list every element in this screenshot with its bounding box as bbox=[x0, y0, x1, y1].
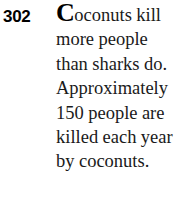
fact-number: 302 bbox=[3, 8, 30, 25]
fact-page: 302 Coconuts kill more people than shark… bbox=[0, 0, 175, 208]
fact-body-remainder: oconuts kill more people than sharks do.… bbox=[56, 5, 173, 171]
initial-cap-letter: C bbox=[56, 0, 74, 27]
fact-body-text: Coconuts kill more people than sharks do… bbox=[56, 3, 175, 174]
